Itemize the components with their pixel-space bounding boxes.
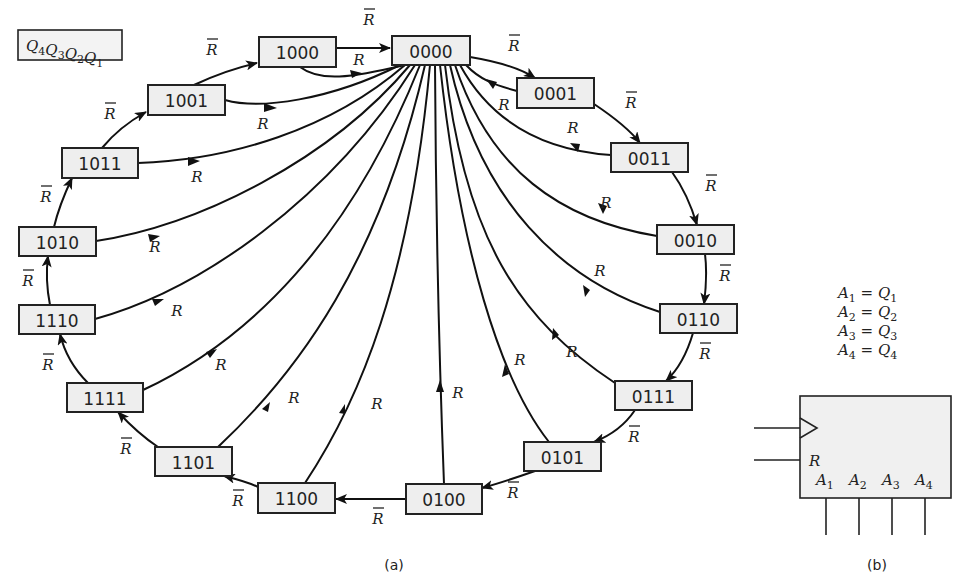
reset-label: R — [370, 395, 382, 413]
svg-text:1101: 1101 — [172, 453, 215, 473]
reset-label: R — [352, 51, 364, 69]
reset-label: R — [190, 168, 202, 186]
reset-label: R — [497, 96, 509, 114]
svg-text:1111: 1111 — [83, 389, 126, 409]
svg-text:0001: 0001 — [534, 84, 577, 104]
output-equations: A1 = Q1A2 = Q2A3 = Q3A4 = Q4 — [836, 284, 897, 362]
not-reset-label: R — [119, 440, 131, 458]
state-1000: 1000 — [259, 37, 336, 67]
not-reset-label: R — [21, 272, 33, 290]
not-reset-label: R — [205, 41, 217, 59]
reset-label: R — [451, 384, 463, 402]
counter-block: R A1A2A3A4 — [754, 396, 951, 535]
not-reset-label: R — [507, 37, 519, 55]
svg-text:1011: 1011 — [78, 154, 121, 174]
state-0100: 0100 — [406, 484, 482, 514]
reset-label: R — [566, 119, 578, 137]
not-reset-label: R — [506, 484, 518, 502]
not-reset-label: R — [704, 177, 716, 195]
not-reset-label: R — [41, 356, 53, 374]
not-reset-label: R — [103, 105, 115, 123]
reset-label: R — [214, 356, 226, 374]
svg-text:0000: 0000 — [409, 42, 452, 62]
state-1100: 1100 — [258, 483, 335, 513]
not-reset-label: R — [627, 428, 639, 446]
reset-pin-label: R — [808, 452, 820, 470]
equation-4: A4 = Q4 — [836, 341, 897, 362]
not-reset-label: R — [624, 94, 636, 112]
reset-label: R — [599, 194, 611, 212]
state-1011: 1011 — [62, 148, 138, 178]
state-1111: 1111 — [67, 383, 143, 412]
svg-text:1010: 1010 — [36, 233, 79, 253]
svg-text:1000: 1000 — [276, 43, 319, 63]
equation-3: A3 = Q3 — [836, 322, 897, 343]
state-0111: 0111 — [615, 381, 692, 410]
state-diagram: Q4Q3Q2Q1 — [0, 0, 971, 586]
not-reset-label: R — [718, 267, 730, 285]
not-reset-label: R — [362, 11, 374, 29]
reset-label: R — [593, 262, 605, 280]
svg-text:0010: 0010 — [674, 231, 717, 251]
reset-label: R — [256, 115, 268, 133]
state-1010: 1010 — [19, 227, 96, 256]
state-0000: 0000 — [392, 36, 470, 65]
state-0110: 0110 — [660, 304, 737, 333]
svg-text:0100: 0100 — [422, 490, 465, 510]
bit-order-legend: Q4Q3Q2Q1 — [18, 30, 122, 70]
not-reset-label: R — [371, 510, 383, 528]
caption-b: (b) — [867, 557, 887, 573]
state-0101: 0101 — [524, 442, 601, 471]
equation-2: A2 = Q2 — [836, 303, 897, 324]
count-edges — [47, 48, 706, 499]
svg-text:1001: 1001 — [165, 91, 208, 111]
svg-text:0110: 0110 — [677, 310, 720, 330]
equation-1: A1 = Q1 — [836, 284, 897, 305]
svg-text:0101: 0101 — [541, 448, 584, 468]
reset-label: R — [170, 302, 182, 320]
reset-label: R — [513, 351, 525, 369]
state-1001: 1001 — [148, 85, 225, 115]
state-0011: 0011 — [611, 143, 688, 172]
reset-label: R — [565, 343, 577, 361]
state-0010: 0010 — [657, 225, 734, 254]
not-reset-label: R — [231, 492, 243, 510]
state-0001: 0001 — [517, 78, 594, 108]
reset-label: R — [287, 389, 299, 407]
svg-text:0011: 0011 — [628, 149, 671, 169]
svg-text:1110: 1110 — [35, 311, 78, 331]
state-1110: 1110 — [19, 305, 95, 334]
not-reset-label: R — [698, 345, 710, 363]
svg-text:1100: 1100 — [275, 489, 318, 509]
not-reset-label: R — [39, 188, 51, 206]
caption-a: (a) — [384, 557, 404, 573]
svg-text:0111: 0111 — [632, 387, 675, 407]
reset-label: R — [148, 238, 160, 256]
state-1101: 1101 — [155, 447, 232, 476]
